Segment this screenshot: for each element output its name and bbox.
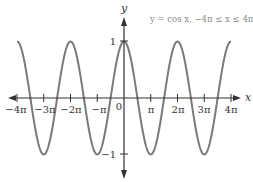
- y-axis-top-arrow-icon: [121, 17, 127, 26]
- x-tick-label: 2π: [172, 104, 185, 115]
- y-axis-label: y: [120, 2, 128, 15]
- x-axis-left-arrow-icon: [8, 95, 16, 101]
- y-tick-label-one: 1: [110, 36, 116, 47]
- x-tick-label: 3π: [198, 104, 211, 115]
- x-tick-label: −2π: [60, 104, 82, 115]
- x-axis-right-arrow-icon: [233, 95, 241, 101]
- chart-title: y = cos x, −4π ≤ x ≤ 4π: [149, 14, 253, 24]
- x-tick-label: −3π: [34, 104, 56, 115]
- y-axis-bottom-arrow-icon: [121, 170, 127, 179]
- x-tick-label: π: [148, 104, 155, 115]
- x-axis-label: x: [245, 91, 252, 104]
- x-tick-label: −π: [92, 104, 107, 115]
- y-tick-label-neg-one: −1: [101, 149, 116, 160]
- x-tick-label: 4π: [225, 104, 238, 115]
- origin-label: 0: [116, 101, 122, 112]
- x-tick-label: −4π: [5, 104, 27, 115]
- cosine-chart: −4π −3π −2π −π π 2π 3π 4π 0 1 −1 x y y =…: [0, 0, 253, 182]
